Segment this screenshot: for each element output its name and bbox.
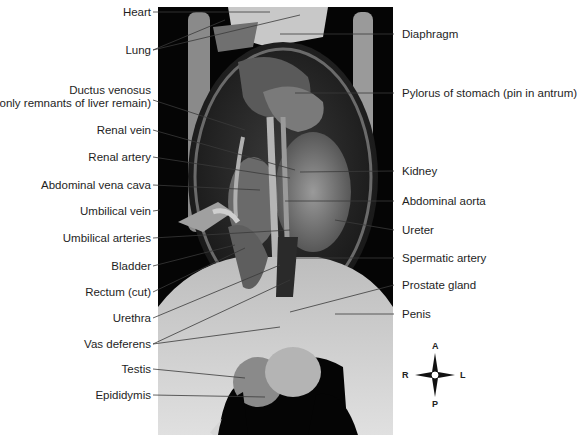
label-diaphragm: Diaphragm — [402, 28, 458, 41]
label-penis: Penis — [402, 308, 431, 321]
compass-posterior: P — [432, 399, 438, 409]
label-renal-artery: Renal artery — [88, 151, 151, 164]
label-testis: Testis — [122, 363, 151, 376]
compass-left: L — [460, 370, 466, 380]
label-bladder: Bladder — [111, 260, 151, 273]
label-lung: Lung — [125, 44, 151, 57]
label-renal-vein: Renal vein — [97, 124, 151, 137]
label-prostate-gland: Prostate gland — [402, 279, 476, 292]
label-urethra: Urethra — [113, 312, 151, 325]
label-ductus-venosus: Ductus venosus — [69, 84, 151, 97]
label-umbilical-arteries: Umbilical arteries — [63, 232, 151, 245]
label-umbilical-vein: Umbilical vein — [80, 205, 151, 218]
label-ureter: Ureter — [402, 224, 434, 237]
dissection-photo — [158, 7, 393, 435]
compass-right: R — [402, 370, 409, 380]
label-ductus-venosus-note: (only remnants of liver remain) — [0, 97, 151, 110]
label-heart: Heart — [123, 6, 151, 19]
label-abdominal-aorta: Abdominal aorta — [402, 195, 486, 208]
dissection-illustration — [158, 7, 393, 435]
label-pylorus: Pylorus of stomach (pin in antrum) — [402, 87, 577, 100]
compass-anterior: A — [432, 341, 439, 351]
label-spermatic-artery: Spermatic artery — [402, 252, 486, 265]
label-rectum: Rectum (cut) — [85, 286, 151, 299]
label-kidney: Kidney — [402, 165, 437, 178]
label-epididymis: Epididymis — [95, 389, 151, 402]
label-abdominal-vena-cava: Abdominal vena cava — [41, 179, 151, 192]
orientation-compass-icon: A P R L — [405, 345, 465, 405]
label-vas-deferens: Vas deferens — [84, 338, 151, 351]
